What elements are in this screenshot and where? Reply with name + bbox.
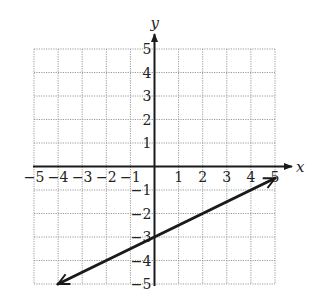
y-tick-label: 3: [143, 88, 152, 104]
axes: [33, 34, 292, 286]
x-tick-label: −5: [24, 169, 45, 185]
y-tick-label: 5: [143, 41, 152, 57]
x-tick-label: 1: [174, 169, 183, 185]
x-tick-label: 5: [271, 169, 280, 185]
y-tick-label: 4: [143, 65, 152, 81]
y-tick-label: −5: [131, 276, 152, 292]
coordinate-plane: −5−4−3−2−11234554321−1−2−3−4−5 x y: [0, 0, 311, 293]
x-axis-label: x: [296, 158, 305, 176]
y-tick-label: 2: [143, 112, 152, 128]
y-axis-label: y: [150, 14, 160, 32]
y-tick-label: −2: [131, 206, 152, 222]
x-tick-label: −4: [48, 169, 69, 185]
x-tick-label: −3: [72, 169, 93, 185]
plotted-line: [58, 178, 275, 284]
data-line: [58, 178, 275, 284]
x-tick-label: −2: [96, 169, 117, 185]
x-tick-label: 2: [198, 169, 207, 185]
y-tick-label: −4: [131, 253, 152, 269]
chart-svg: −5−4−3−2−11234554321−1−2−3−4−5 x y: [0, 0, 311, 293]
x-tick-label: 4: [246, 169, 255, 185]
y-tick-label: −1: [131, 182, 152, 198]
y-tick-label: 1: [143, 135, 152, 151]
x-tick-label: 3: [222, 169, 231, 185]
